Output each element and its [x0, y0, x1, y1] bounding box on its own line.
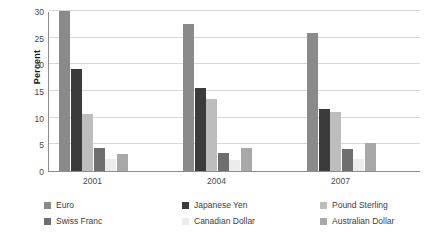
bar-group — [307, 12, 376, 171]
bar — [353, 159, 364, 171]
x-axis-tick-label: 2007 — [331, 176, 350, 186]
y-axis-tick-label: 25 — [14, 34, 44, 43]
x-axis-tick-labels: 200120042007 — [48, 176, 420, 192]
legend-label: Japanese Yen — [194, 201, 247, 210]
bar-group — [59, 12, 128, 171]
bar-series-container — [49, 12, 420, 171]
bar — [241, 148, 252, 171]
y-axis-tick-label: 5 — [14, 141, 44, 150]
legend-swatch-icon — [44, 202, 51, 209]
legend-item[interactable]: Euro — [44, 199, 74, 212]
bar — [82, 114, 93, 171]
legend-label: Canadian Dollar — [194, 217, 255, 226]
y-axis-tick-label: 30 — [14, 8, 44, 17]
bar — [94, 148, 105, 171]
legend-label: Euro — [56, 201, 74, 210]
bar — [218, 153, 229, 171]
y-axis-tick-label: 0 — [14, 168, 44, 177]
gridline — [49, 10, 420, 11]
legend-item[interactable]: Canadian Dollar — [182, 215, 255, 228]
bar — [319, 109, 330, 171]
bar — [105, 159, 116, 171]
chart-legend: EuroJapanese YenPound SterlingSwiss Fran… — [44, 199, 424, 231]
bar — [229, 160, 240, 171]
legend-item[interactable]: Australian Dollar — [320, 215, 394, 228]
legend-label: Swiss Franc — [56, 217, 102, 226]
bar — [117, 154, 128, 171]
y-axis-tick-label: 20 — [14, 61, 44, 70]
bar — [71, 69, 82, 171]
bar — [330, 112, 341, 171]
legend-swatch-icon — [320, 202, 327, 209]
bar — [342, 149, 353, 171]
y-axis-tick-label: 10 — [14, 114, 44, 123]
legend-item[interactable]: Pound Sterling — [320, 199, 388, 212]
x-axis-tick-label: 2004 — [207, 176, 226, 186]
legend-item[interactable]: Swiss Franc — [44, 215, 102, 228]
bar — [195, 88, 206, 171]
y-axis-tick-labels: 051015202530 — [14, 0, 44, 236]
legend-swatch-icon — [320, 218, 327, 225]
bar-chart-figure: Percent 051015202530 200120042007 EuroJa… — [0, 0, 433, 236]
legend-item[interactable]: Japanese Yen — [182, 199, 247, 212]
legend-label: Australian Dollar — [332, 217, 394, 226]
bar — [59, 11, 70, 171]
legend-swatch-icon — [44, 218, 51, 225]
legend-label: Pound Sterling — [332, 201, 388, 210]
bar-group — [183, 12, 252, 171]
legend-swatch-icon — [182, 218, 189, 225]
bar — [365, 143, 376, 171]
bar — [183, 24, 194, 171]
bar — [206, 99, 217, 171]
x-axis-tick-label: 2001 — [83, 176, 102, 186]
legend-swatch-icon — [182, 202, 189, 209]
y-axis-tick-label: 15 — [14, 88, 44, 97]
bar — [307, 33, 318, 171]
plot-area — [48, 12, 420, 172]
